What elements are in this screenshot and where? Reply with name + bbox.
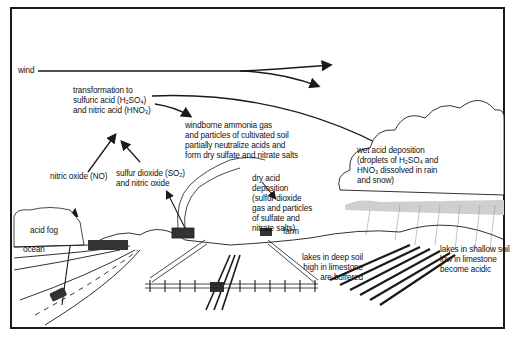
ammonia-neutralization-label: windborne ammonia gas and particles of c…	[185, 121, 298, 161]
nitric-oxide-label: nitric oxide (NO)	[50, 172, 107, 182]
transformation-label: transformation to sulfuric acid (H₂SO₄) …	[73, 86, 151, 116]
ocean-label: ocean	[23, 245, 45, 255]
tractor-icon	[210, 282, 224, 292]
wind-arrow-icon	[38, 65, 330, 86]
farm-label: farm	[283, 227, 299, 237]
diagram-illustration	[0, 0, 518, 342]
lakes-deep-soil-label: lakes in deep soil high in limestone are…	[302, 253, 363, 283]
lakes-shallow-soil-label: lakes in shallow soil low in limestone b…	[440, 245, 510, 275]
dry-deposition-label: dry acid deposition (sulfur dioxide gas …	[252, 174, 312, 234]
wind-label: wind	[18, 66, 34, 76]
wet-deposition-label: wet acid deposition (droplets of H₂SO₄ a…	[357, 146, 438, 186]
acid-fog-label: acid fog	[30, 226, 58, 236]
sulfur-dioxide-label: sulfur dioxide (SO₂) and nitric oxide	[116, 169, 185, 189]
town-icon	[88, 240, 128, 250]
road-icon	[20, 250, 140, 325]
